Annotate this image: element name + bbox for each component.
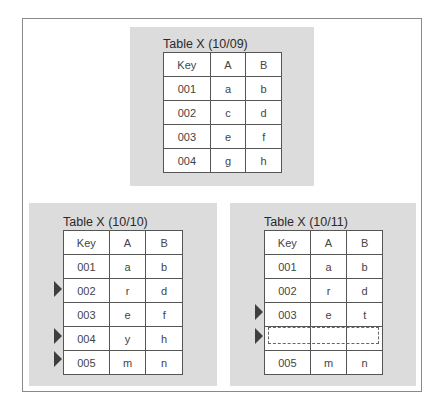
table-row: 002 r d	[64, 279, 183, 303]
changed-row-marker-icon	[255, 304, 263, 320]
cell-a: r	[109, 279, 146, 303]
cell-a: a	[109, 255, 146, 279]
cell-key: 003	[64, 303, 110, 327]
cell-b: h	[146, 327, 183, 351]
cell-key: 005	[64, 351, 110, 375]
table-row: 005 m n	[64, 351, 183, 375]
table-row: 005 m n	[265, 351, 383, 375]
table-1010: Key A B 001 a b 002 r d 003 e f 004 y h …	[63, 230, 183, 375]
header-a: A	[210, 53, 246, 77]
table-header-row: Key A B	[64, 231, 183, 255]
table-title-1009: Table X (10/09)	[163, 37, 248, 51]
cell-key: 003	[164, 125, 211, 149]
header-b: B	[246, 53, 282, 77]
cell-key: 001	[265, 255, 311, 279]
header-b: B	[146, 231, 183, 255]
cell-a: m	[109, 351, 146, 375]
cell-b: f	[246, 125, 282, 149]
header-key: Key	[265, 231, 311, 255]
cell-key: 002	[265, 279, 311, 303]
cell-b: b	[347, 255, 383, 279]
table-title-1010: Table X (10/10)	[63, 215, 148, 229]
header-a: A	[310, 231, 347, 255]
header-key: Key	[64, 231, 110, 255]
cell-b: b	[146, 255, 183, 279]
cell-a: a	[210, 77, 246, 101]
cell-b: n	[146, 351, 183, 375]
cell-a: y	[109, 327, 146, 351]
cell-key: 003	[265, 303, 311, 327]
cell-b: b	[246, 77, 282, 101]
table-1011: Key A B 001 a b 002 r d 003 e t 005 m n	[264, 230, 383, 375]
cell-b: h	[246, 149, 282, 173]
cell-a: e	[109, 303, 146, 327]
table-row: 003 e t	[265, 303, 383, 327]
cell-a: a	[310, 255, 347, 279]
header-key: Key	[164, 53, 211, 77]
cell-key: 004	[164, 149, 211, 173]
cell-b: d	[246, 101, 282, 125]
table-row: 001 a b	[164, 77, 282, 101]
cell-a: g	[210, 149, 246, 173]
table-row: 003 e f	[164, 125, 282, 149]
cell-key: 002	[64, 279, 110, 303]
table-title-1011: Table X (10/11)	[264, 215, 348, 229]
cell-a: c	[210, 101, 246, 125]
cell-key: 004	[64, 327, 110, 351]
cell-key: 001	[64, 255, 110, 279]
table-row: 002 c d	[164, 101, 282, 125]
table-row: 001 a b	[64, 255, 183, 279]
changed-row-marker-icon	[255, 328, 263, 344]
cell-b: d	[347, 279, 383, 303]
table-row: 002 r d	[265, 279, 383, 303]
cell-b: n	[347, 351, 383, 375]
table-header-row: Key A B	[164, 53, 282, 77]
cell-b: f	[146, 303, 183, 327]
cell-b: d	[146, 279, 183, 303]
cell-a: m	[310, 351, 347, 375]
changed-row-marker-icon	[54, 281, 62, 297]
table-row: 004 y h	[64, 327, 183, 351]
table-header-row: Key A B	[265, 231, 383, 255]
changed-row-marker-icon	[54, 328, 62, 344]
header-b: B	[347, 231, 383, 255]
table-row: 004 g h	[164, 149, 282, 173]
cell-a: r	[310, 279, 347, 303]
changed-row-marker-icon	[54, 351, 62, 367]
cell-key: 005	[265, 351, 311, 375]
header-a: A	[109, 231, 146, 255]
table-1009: Key A B 001 a b 002 c d 003 e f 004 g h	[163, 52, 282, 173]
cell-key: 001	[164, 77, 211, 101]
cell-b: t	[347, 303, 383, 327]
cell-a: e	[310, 303, 347, 327]
cell-key: 002	[164, 101, 211, 125]
deleted-row-outline	[268, 327, 379, 344]
cell-a: e	[210, 125, 246, 149]
table-row: 001 a b	[265, 255, 383, 279]
table-row: 003 e f	[64, 303, 183, 327]
